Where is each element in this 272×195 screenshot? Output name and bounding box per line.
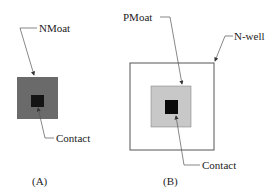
figure-b: PMoat N-well Contact (B) [123,11,265,188]
caption-b: (B) [163,175,178,188]
pmoat-label: PMoat [123,11,152,23]
nwell-leader [215,36,233,61]
contact-a [31,95,44,107]
nwell-label: N-well [234,30,265,42]
figure-a: NMoat Contact (A) [17,22,90,188]
caption-a: (A) [32,175,48,188]
contact-b-label: Contact [202,159,236,171]
contact-b [165,100,178,114]
nmoat-label: NMoat [39,22,70,34]
contact-a-label: Contact [56,132,90,144]
layout-diagram: NMoat Contact (A) PMoat N-well Contact (… [0,0,272,195]
nmoat-leader [20,28,37,75]
